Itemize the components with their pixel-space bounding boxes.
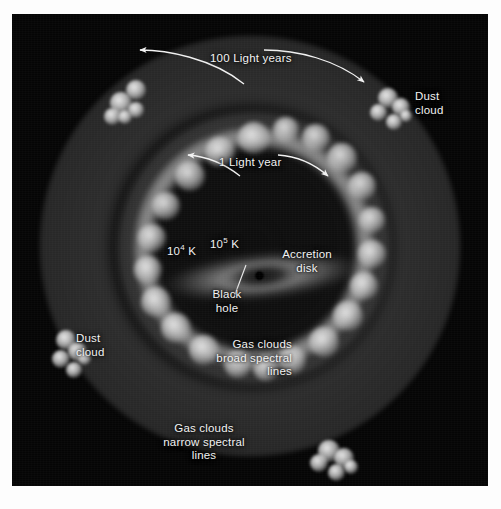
dust-cloud-right-line1: Dust [415, 90, 444, 104]
figure-plate: 100 Light years 1 Light year 104 K 105 K… [12, 14, 488, 486]
label-temperature-outer: 104 K [167, 245, 196, 259]
label-narrow-line-clouds: Gas clouds narrow spectral lines [134, 422, 274, 463]
black-hole-label-line2: hole [199, 302, 255, 316]
label-dust-cloud-right: Dust cloud [415, 90, 444, 117]
dust-cloud-left-line2: cloud [76, 346, 105, 360]
label-temperature-inner: 105 K [210, 238, 239, 252]
narrow-line-label-line3: lines [134, 449, 274, 463]
label-black-hole: Black hole [199, 288, 255, 315]
narrow-line-label-line1: Gas clouds [134, 422, 274, 436]
accretion-disk-label-line2: disk [274, 262, 340, 276]
temp-outer-unit: K [185, 245, 196, 257]
label-100-light-years: 100 Light years [210, 52, 292, 66]
temp-inner-unit: K [228, 238, 239, 250]
arrow-1ly-right [278, 155, 328, 176]
narrow-line-label-line2: narrow spectral [134, 436, 274, 450]
black-hole-label-line1: Black [199, 288, 255, 302]
dust-cloud-left-line1: Dust [76, 332, 105, 346]
temp-inner-base: 10 [210, 238, 223, 250]
label-accretion-disk: Accretion disk [274, 248, 340, 275]
annotation-overlay [12, 14, 488, 486]
label-1-light-year: 1 Light year [219, 156, 282, 170]
temp-outer-base: 10 [167, 245, 180, 257]
accretion-disk-label-line1: Accretion [274, 248, 340, 262]
broad-line-label-line2: broad spectral [160, 352, 292, 366]
figure-page: 100 Light years 1 Light year 104 K 105 K… [0, 0, 501, 509]
broad-line-label-line3: lines [160, 365, 292, 379]
broad-line-label-line1: Gas clouds [160, 338, 292, 352]
label-dust-cloud-left: Dust cloud [76, 332, 105, 359]
label-broad-line-clouds: Gas clouds broad spectral lines [160, 338, 292, 379]
dust-cloud-right-line2: cloud [415, 104, 444, 118]
